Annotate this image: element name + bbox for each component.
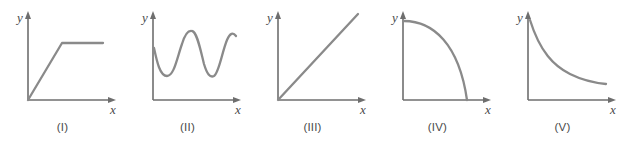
panel-ii: y x (II) <box>125 0 250 147</box>
y-axis-label-v: y <box>515 10 523 25</box>
plot-area-ii: y x <box>125 0 250 120</box>
panel-v: y x (V) <box>500 0 625 147</box>
y-axis-label-ii: y <box>140 10 148 25</box>
panel-i: y x (I) <box>0 0 125 147</box>
plot-area-iv: y x <box>375 0 500 120</box>
figure-strip: y x (I) y x (II) <box>0 0 625 147</box>
curve-exponential-decay <box>530 20 606 84</box>
panel-caption-iii: (III) <box>250 122 375 134</box>
y-axis-label-iv: y <box>390 10 398 25</box>
x-axis-label-ii: x <box>234 102 241 117</box>
y-axis-label-i: y <box>15 10 23 25</box>
curve-oscillating-wave <box>154 31 236 77</box>
y-axis-label-iii: y <box>265 10 273 25</box>
panel-caption-v: (V) <box>500 122 625 134</box>
x-axis-label-v: x <box>609 102 616 117</box>
curve-linear <box>278 14 358 100</box>
plot-area-iii: y x <box>250 0 375 120</box>
plot-area-i: y x <box>0 0 125 120</box>
plot-area-v: y x <box>500 0 625 120</box>
panel-caption-i: (I) <box>0 122 125 134</box>
curve-ramp-plateau <box>28 43 103 100</box>
panel-caption-ii: (II) <box>125 122 250 134</box>
x-axis-label-iii: x <box>359 102 366 117</box>
x-axis-label-iv: x <box>484 102 491 117</box>
panel-iv: y x (IV) <box>375 0 500 147</box>
curve-quarter-circle <box>404 21 467 100</box>
panel-iii: y x (III) <box>250 0 375 147</box>
x-axis-label-i: x <box>109 102 116 117</box>
panel-caption-iv: (IV) <box>375 122 500 134</box>
